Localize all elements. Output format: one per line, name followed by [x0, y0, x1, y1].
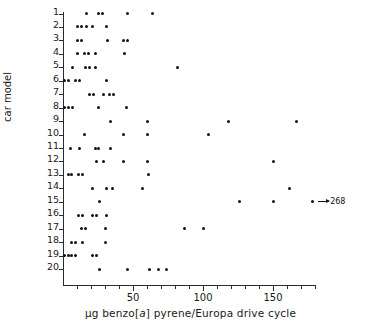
data-point	[311, 200, 314, 203]
data-point	[101, 12, 104, 15]
data-point	[85, 25, 88, 28]
y-tick-label: 17	[47, 222, 59, 232]
y-tick-mark	[59, 121, 63, 122]
data-point	[122, 39, 125, 42]
x-tick-minor-120	[231, 285, 232, 289]
data-point	[70, 173, 73, 176]
data-point	[81, 241, 84, 244]
data-point	[84, 66, 87, 69]
data-point	[80, 39, 83, 42]
y-tick-label: 14	[47, 181, 59, 191]
data-point	[88, 66, 91, 69]
data-point	[112, 93, 115, 96]
y-tick-mark	[59, 269, 63, 270]
data-point	[70, 241, 73, 244]
data-point	[109, 120, 112, 123]
data-point	[91, 214, 94, 217]
data-point	[288, 187, 291, 190]
y-tick-label: 1	[53, 7, 59, 17]
data-point	[122, 160, 125, 163]
y-tick-mark	[59, 175, 63, 176]
data-point	[95, 160, 98, 163]
data-point	[98, 200, 101, 203]
data-point	[84, 227, 87, 230]
x-axis-title: µg benzo[a] pyrene/Europa drive cycle	[0, 307, 381, 319]
x-tick-label-50: 50	[127, 292, 140, 303]
y-tick-label: 15	[47, 195, 59, 205]
off-scale-annotation: 268	[318, 198, 345, 206]
y-tick-label: 8	[53, 101, 59, 111]
data-point	[227, 120, 230, 123]
data-point	[74, 254, 77, 257]
y-tick-label: 20	[47, 262, 59, 272]
x-tick-minor-140	[259, 285, 260, 289]
y-axis-title: car model	[2, 72, 13, 122]
data-point	[126, 12, 129, 15]
data-point	[109, 147, 112, 150]
data-point	[272, 200, 275, 203]
data-point	[98, 268, 101, 271]
y-tick-mark	[59, 161, 63, 162]
data-point	[105, 214, 108, 217]
data-point	[67, 106, 70, 109]
data-point	[97, 12, 100, 15]
data-point	[69, 147, 72, 150]
y-tick-label: 4	[53, 47, 59, 57]
x-tick-minor-20	[91, 285, 92, 289]
y-tick-mark	[59, 215, 63, 216]
annotation-value: 268	[330, 198, 345, 206]
x-tick-minor-90	[189, 285, 190, 289]
x-tick-label-100: 100	[193, 292, 212, 303]
y-tick-label: 3	[53, 33, 59, 43]
x-tick-label-150: 150	[263, 292, 282, 303]
data-point	[63, 106, 66, 109]
data-point	[77, 173, 80, 176]
data-point	[74, 79, 77, 82]
x-tick-minor-40	[119, 285, 120, 289]
x-tick-minor-130	[245, 285, 246, 289]
data-point	[80, 25, 83, 28]
x-tick-minor-60	[147, 285, 148, 289]
y-tick-mark	[59, 54, 63, 55]
y-tick-mark	[59, 188, 63, 189]
y-tick-mark	[59, 148, 63, 149]
data-point	[76, 25, 79, 28]
data-point	[76, 52, 79, 55]
y-tick-label: 10	[47, 128, 59, 138]
data-point	[87, 52, 90, 55]
x-tick-minor-110	[217, 285, 218, 289]
plot-area: 1234567891011121314151617181920268	[63, 12, 315, 285]
data-point	[272, 160, 275, 163]
data-point	[151, 12, 154, 15]
data-point	[94, 52, 97, 55]
data-point	[126, 39, 129, 42]
data-point	[105, 187, 108, 190]
data-point	[105, 25, 108, 28]
data-point	[106, 39, 109, 42]
data-point	[63, 79, 66, 82]
data-point	[146, 160, 149, 163]
y-tick-label: 16	[47, 208, 59, 218]
data-point	[165, 268, 168, 271]
data-point	[91, 25, 94, 28]
data-point	[104, 227, 107, 230]
data-point	[97, 106, 100, 109]
x-tick-minor-160	[287, 285, 288, 289]
y-tick-mark	[59, 229, 63, 230]
data-point	[70, 254, 73, 257]
data-point	[83, 133, 86, 136]
data-point	[71, 66, 74, 69]
data-point	[141, 187, 144, 190]
x-tick-minor-10	[77, 285, 78, 289]
data-point	[202, 227, 205, 230]
data-point	[92, 93, 95, 96]
y-tick-label: 9	[53, 114, 59, 124]
x-tick-minor-70	[161, 285, 162, 289]
y-tick-mark	[59, 27, 63, 28]
x-tick-major-50	[133, 285, 134, 291]
data-point	[67, 79, 70, 82]
x-tick-minor-80	[175, 285, 176, 289]
y-tick-label: 5	[53, 60, 59, 70]
data-point	[77, 214, 80, 217]
y-tick-mark	[59, 14, 63, 15]
